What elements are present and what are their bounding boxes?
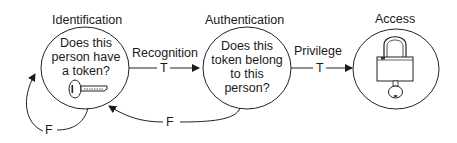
identification-question: Does this person have a token?	[48, 36, 124, 78]
padlock-with-key-icon	[377, 37, 413, 98]
authentication-question: Does this token belong to this person?	[205, 39, 289, 95]
authentication-false-label: F	[166, 116, 174, 129]
key-icon	[69, 80, 107, 98]
identification-title: Identification	[52, 14, 122, 27]
authentication-false-loop	[109, 106, 240, 122]
identification-false-label: F	[45, 124, 53, 137]
privilege-condition: T	[316, 62, 324, 75]
privilege-label: Privilege	[294, 45, 342, 58]
recognition-label: Recognition	[132, 47, 198, 60]
authentication-title: Authentication	[205, 14, 284, 27]
access-title: Access	[375, 13, 415, 26]
recognition-condition: T	[160, 62, 168, 75]
